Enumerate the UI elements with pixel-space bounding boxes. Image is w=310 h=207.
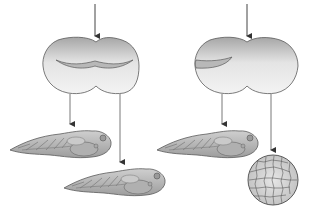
experiment-left xyxy=(10,4,165,196)
tadpole-embryo-left-1 xyxy=(10,131,111,158)
tadpole-embryo-right xyxy=(157,131,258,158)
tadpole-embryo-left-2 xyxy=(64,169,165,196)
undifferentiated-cell-mass xyxy=(248,155,298,205)
diagram-canvas xyxy=(0,0,310,207)
experiment-right xyxy=(157,4,298,205)
